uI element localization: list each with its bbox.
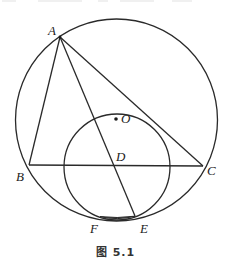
segment-ab bbox=[29, 37, 60, 165]
inner-tangent-circle bbox=[64, 114, 170, 220]
figure-caption: 图 5.1 bbox=[0, 243, 231, 259]
label-a: A bbox=[48, 24, 56, 37]
label-c: C bbox=[207, 164, 216, 177]
label-o: O bbox=[121, 112, 130, 125]
segment-bc bbox=[29, 165, 203, 166]
label-b: B bbox=[16, 170, 24, 183]
label-e: E bbox=[140, 222, 148, 235]
segment-ac bbox=[60, 37, 203, 166]
center-dot-o bbox=[114, 117, 118, 121]
diagram-canvas bbox=[0, 0, 231, 265]
label-f: F bbox=[90, 222, 98, 235]
geometry-figure: A B C D E F O 图 5.1 bbox=[0, 0, 231, 265]
vertex-dot-a bbox=[59, 36, 62, 39]
label-d: D bbox=[116, 150, 125, 163]
segment-ae bbox=[60, 37, 135, 216]
